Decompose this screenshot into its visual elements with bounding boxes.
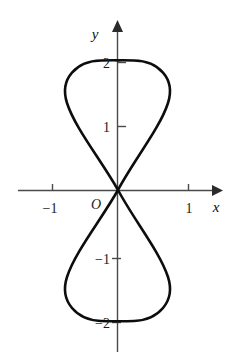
- y-tick-label-neg2: −2: [95, 316, 110, 331]
- y-tick-label-1: 1: [103, 120, 110, 135]
- plot-canvas: y x O 2 1 −1 −2 −1 1: [0, 0, 241, 356]
- y-tick-label-2: 2: [103, 56, 110, 71]
- x-tick-label-1: 1: [186, 201, 193, 216]
- y-axis-label: y: [90, 26, 99, 42]
- y-axis-arrow-icon: [112, 20, 123, 32]
- figure-container: y x O 2 1 −1 −2 −1 1: [0, 0, 241, 356]
- x-axis-arrow-icon: [212, 185, 223, 196]
- x-axis-label: x: [212, 199, 220, 215]
- origin-label: O: [91, 197, 101, 212]
- labels-group: y x O 2 1 −1 −2 −1 1: [43, 26, 220, 331]
- y-tick-label-neg1: −1: [95, 252, 110, 267]
- x-tick-label-neg1: −1: [43, 201, 58, 216]
